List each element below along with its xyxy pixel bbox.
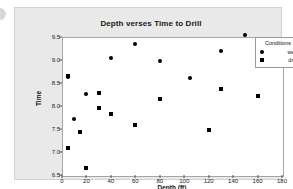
x-axis-tick-mark [282, 175, 283, 178]
x-axis-tick-mark [110, 175, 111, 178]
y-axis-tick-mark [59, 60, 62, 61]
x-axis-tick-mark [208, 175, 209, 178]
data-point-dry [207, 128, 211, 132]
data-point-wet [72, 117, 76, 121]
x-axis-tick-mark [62, 175, 63, 178]
data-point-wet [219, 49, 223, 53]
y-axis-tick-mark [59, 152, 62, 153]
data-point-dry [66, 74, 70, 78]
x-axis-tick-mark [159, 175, 160, 178]
data-point-dry [256, 94, 260, 98]
x-axis-tick-mark [184, 175, 185, 178]
plot-area: 6.57.07.58.08.59.09.5 020406080100120140… [62, 37, 282, 175]
data-point-wet [84, 92, 88, 96]
y-axis-tick-mark [59, 129, 62, 130]
slide-page: Depth verses Time to Drill 6.57.07.58.08… [0, 0, 293, 189]
page-corner-artifact [0, 8, 6, 20]
y-axis-tick-mark [59, 83, 62, 84]
data-point-dry [97, 91, 101, 95]
data-point-wet [188, 76, 192, 80]
data-point-wet [133, 42, 137, 46]
x-axis-tick-mark [233, 175, 234, 178]
legend-title: Conditions [259, 40, 293, 46]
data-point-dry [78, 130, 82, 134]
legend-entry-label: wet [264, 49, 293, 55]
chart-title: Depth verses Time to Drill [59, 19, 243, 28]
legend-entries: wetdry [259, 48, 293, 64]
data-point-dry [84, 166, 88, 170]
y-axis-tick-mark [59, 106, 62, 107]
data-point-dry [66, 146, 70, 150]
x-axis-tick-mark [257, 175, 258, 178]
data-point-wet [243, 33, 247, 37]
data-point-dry [133, 123, 137, 127]
data-point-dry [109, 112, 113, 116]
chart-canvas: Depth verses Time to Drill 6.57.07.58.08… [14, 7, 282, 180]
x-axis-tick-mark [86, 175, 87, 178]
y-axis-title: Time [35, 91, 42, 106]
data-point-wet [158, 59, 162, 63]
legend-entry-wet: wet [259, 48, 293, 56]
legend-entry-label: dry [264, 57, 293, 63]
x-axis-tick-mark [135, 175, 136, 178]
data-point-dry [97, 106, 101, 110]
y-axis-tick-mark [59, 37, 62, 38]
x-axis-title: Depth (ft) [62, 184, 282, 189]
data-point-wet [109, 56, 113, 60]
chart-legend: Conditions wetdry [255, 37, 293, 68]
data-point-dry [158, 97, 162, 101]
legend-entry-dry: dry [259, 56, 293, 64]
data-point-dry [219, 87, 223, 91]
